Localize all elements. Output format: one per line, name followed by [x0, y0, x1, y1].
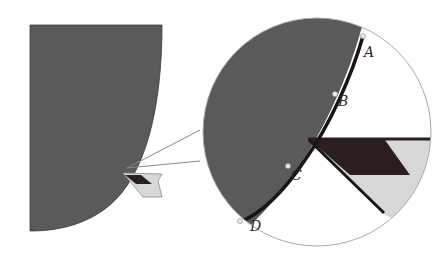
curved-body — [30, 25, 162, 231]
point-c-marker — [285, 163, 290, 168]
contact-diagram: A B C D — [0, 0, 444, 261]
label-b: B — [337, 93, 348, 109]
point-b-marker — [332, 91, 337, 96]
magnified-view: A B C D — [190, 10, 440, 260]
label-a: A — [362, 44, 374, 60]
point-a-marker — [360, 33, 365, 38]
insert-overview — [123, 173, 162, 197]
point-d-marker — [237, 218, 242, 223]
label-d: D — [249, 218, 261, 234]
label-c: C — [291, 167, 302, 183]
